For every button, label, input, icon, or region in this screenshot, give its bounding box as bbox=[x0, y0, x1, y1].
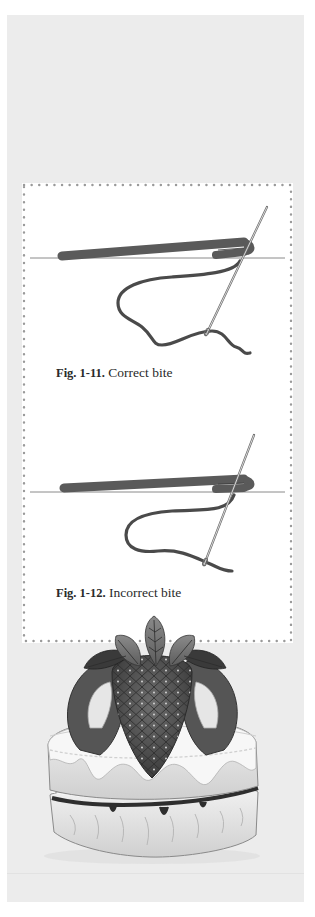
panel-divider bbox=[7, 873, 304, 874]
figure-label: Fig. 1-12. bbox=[56, 586, 106, 600]
figure-caption-text: Correct bite bbox=[108, 365, 172, 380]
cake-illustration bbox=[40, 610, 270, 870]
figure-correct-bite bbox=[22, 195, 293, 365]
needle-thread-correct-bite-illustration bbox=[22, 195, 293, 365]
figure-label: Fig. 1-11. bbox=[56, 366, 105, 380]
strawberry-cake-image bbox=[40, 610, 270, 870]
figure-caption-text: Incorrect bite bbox=[109, 585, 181, 600]
caption-incorrect-bite: Fig. 1-12. Incorrect bite bbox=[56, 585, 181, 601]
needle-thread-incorrect-bite-illustration bbox=[22, 425, 293, 585]
figure-incorrect-bite bbox=[22, 425, 293, 585]
caption-correct-bite: Fig. 1-11. Correct bite bbox=[56, 365, 172, 381]
